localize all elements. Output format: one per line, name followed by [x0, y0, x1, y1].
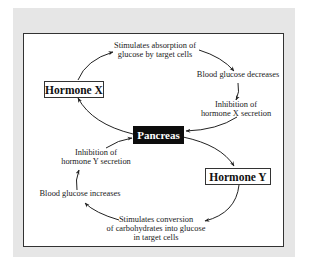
step-inhibition-y-line-1: Inhibition of [58, 148, 134, 157]
step-inhibition-hormone-x: Inhibition of hormone X secretion [194, 100, 278, 118]
step-inhibition-x-line-2: hormone X secretion [194, 109, 278, 118]
hormone-x-node: Hormone X [44, 81, 104, 98]
step-inhibition-x-line-1: Inhibition of [194, 100, 278, 109]
step-stimulates-absorption-line-1: Stimulates absorption of [114, 41, 196, 50]
step-inhibition-hormone-y: Inhibition of hormone Y secretion [58, 148, 134, 166]
hormone-y-node: Hormone Y [205, 168, 271, 185]
step-stimulates-conversion: Stimulates conversion of carbohydrates i… [106, 215, 206, 243]
step-stimulates-conversion-line-2: of carbohydrates into glucose [106, 224, 206, 233]
pancreas-node: Pancreas [133, 126, 184, 144]
step-blood-glucose-increases: Blood glucose increases [38, 189, 122, 198]
step-stimulates-absorption-line-2: glucose by target cells [114, 50, 196, 59]
step-stimulates-absorption: Stimulates absorption of glucose by targ… [114, 41, 196, 59]
step-stimulates-conversion-line-3: in target cells [106, 233, 206, 242]
step-blood-glucose-decreases: Blood glucose decreases [196, 70, 280, 79]
step-inhibition-y-line-2: hormone Y secretion [58, 157, 134, 166]
step-stimulates-conversion-line-1: Stimulates conversion [106, 215, 206, 224]
